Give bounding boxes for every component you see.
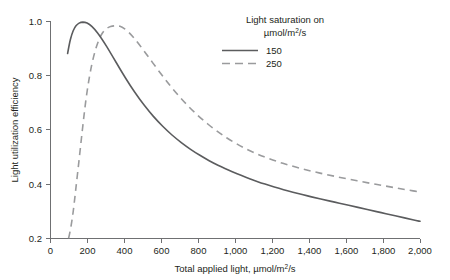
y-tick-label-0.6: 0.6 <box>29 124 42 135</box>
x-tick-label-1200: 1,200 <box>261 245 285 256</box>
series-line-250 <box>69 26 420 239</box>
x-tick-label-1800: 1,800 <box>372 245 396 256</box>
legend-item-250[interactable]: 250 <box>222 58 282 69</box>
legend-title-line2: µmol/m2/s <box>264 27 307 39</box>
x-tick-label-0: 0 <box>48 245 53 256</box>
line-chart-canvas: 1.0 0.8 0.6 0.4 0.2 Light utilization ef… <box>0 0 450 280</box>
x-axis-title-post: /s <box>288 263 296 274</box>
x-tick-label-1600: 1,600 <box>335 245 359 256</box>
legend: Light saturation on µmol/m2/s 150 250 <box>222 14 324 69</box>
chart-figure: 1.0 0.8 0.6 0.4 0.2 Light utilization ef… <box>0 0 450 280</box>
y-tick-label-0.4: 0.4 <box>29 179 42 190</box>
x-tick-label-1000: 1,000 <box>224 245 248 256</box>
y-tick-label-0.8: 0.8 <box>29 70 42 81</box>
y-tick-label-1.0: 1.0 <box>29 16 42 27</box>
x-axis-title-pre: Total applied light, µmol/m <box>174 263 284 274</box>
legend-title-units-post: /s <box>299 27 307 38</box>
x-tick-label-400: 400 <box>117 245 133 256</box>
legend-label-150: 150 <box>266 45 282 56</box>
y-tick-label-0.2: 0.2 <box>29 233 42 244</box>
legend-item-150[interactable]: 150 <box>222 45 282 56</box>
legend-title-line1: Light saturation on <box>246 14 324 25</box>
legend-title-units-pre: µmol/m <box>264 27 295 38</box>
x-tick-label-1400: 1,400 <box>298 245 322 256</box>
y-axis-tick-labels: 1.0 0.8 0.6 0.4 0.2 <box>29 16 42 244</box>
x-tick-label-2000: 2,000 <box>408 245 432 256</box>
x-tick-label-600: 600 <box>154 245 170 256</box>
y-axis-ticks <box>46 22 51 239</box>
x-tick-label-200: 200 <box>80 245 96 256</box>
legend-label-250: 250 <box>266 58 282 69</box>
series-line-150 <box>68 22 420 221</box>
y-axis-title: Light utilization efficiency <box>9 77 20 182</box>
axis-frame <box>51 21 421 239</box>
x-axis-tick-labels: 0 200 400 600 800 1,000 1,200 1,400 1,60… <box>48 245 432 256</box>
x-axis-title: Total applied light, µmol/m2/s <box>174 263 295 275</box>
x-axis-ticks <box>51 239 421 244</box>
x-tick-label-800: 800 <box>191 245 207 256</box>
